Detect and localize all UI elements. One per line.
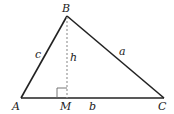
triangle-diagram: B A C M c a b h	[0, 0, 174, 114]
foot-label-m: M	[59, 100, 72, 113]
right-angle-marker	[57, 88, 67, 98]
side-label-c: c	[35, 48, 41, 61]
vertex-label-a: A	[11, 100, 20, 113]
vertex-label-c: C	[158, 100, 167, 113]
side-label-b: b	[89, 100, 96, 113]
vertex-label-b: B	[61, 2, 70, 15]
side-c	[21, 16, 67, 98]
side-a	[67, 16, 164, 98]
side-label-a: a	[119, 45, 126, 58]
altitude-label-h: h	[70, 51, 77, 64]
